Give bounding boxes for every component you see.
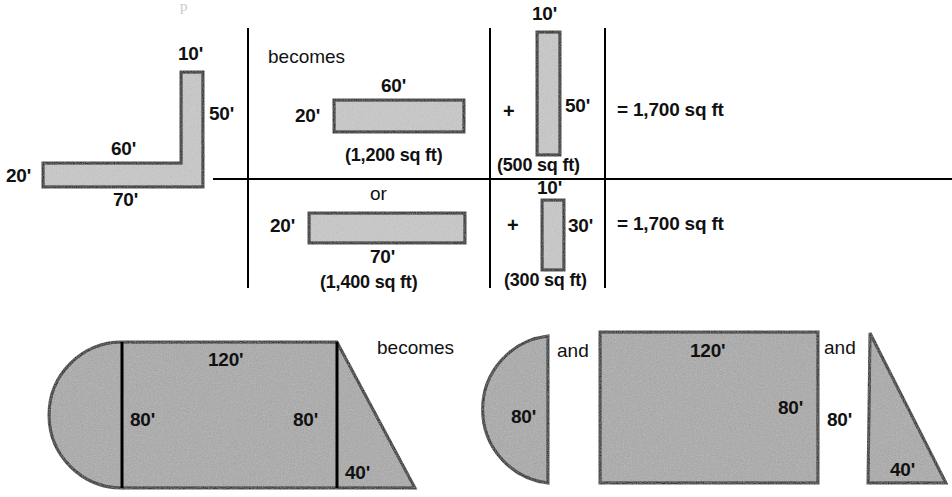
label-part-rect-length: 120' xyxy=(690,341,725,360)
label-rect70-area: (1,400 sq ft) xyxy=(320,273,417,291)
rect-70x20 xyxy=(309,213,465,243)
label-or: or xyxy=(370,183,387,205)
label-composite-triangle-base: 40' xyxy=(345,463,370,482)
rect-10x50 xyxy=(537,32,560,155)
label-rect70-height: 20' xyxy=(270,216,295,235)
label-total-a: = 1,700 sq ft xyxy=(617,100,724,119)
operator-plus-b: + xyxy=(507,214,519,237)
label-becomes-top: becomes xyxy=(268,46,345,68)
label-bar30-height: 30' xyxy=(568,216,593,235)
label-rect60-area: (1,200 sq ft) xyxy=(345,146,442,164)
label-and-1: and xyxy=(557,340,589,362)
operator-plus-a: + xyxy=(503,100,515,123)
label-and-2: and xyxy=(824,337,856,359)
label-l-left-height: 20' xyxy=(6,166,31,185)
label-bar50-width: 10' xyxy=(532,4,557,23)
label-l-bottom-width: 70' xyxy=(113,190,138,209)
label-rect70-length: 70' xyxy=(370,247,395,266)
label-part-rect-height: 80' xyxy=(778,398,803,417)
label-becomes-bottom: becomes xyxy=(377,337,454,359)
label-total-b: = 1,700 sq ft xyxy=(617,214,724,233)
label-l-top-width: 10' xyxy=(178,44,203,63)
label-rect60-height: 20' xyxy=(295,106,320,125)
page-title-fragment: p xyxy=(180,0,188,15)
label-l-right-height: 50' xyxy=(209,104,234,123)
label-bar30-width: 10' xyxy=(537,178,562,197)
label-part-triangle-base: 40' xyxy=(890,460,915,479)
label-composite-left-height: 80' xyxy=(130,410,155,429)
label-bar50-area: (500 sq ft) xyxy=(497,156,580,174)
diagram-canvas: p 10' 50' 60' 20' 70' becomes 60' 20' (1… xyxy=(0,0,952,497)
label-bar50-height: 50' xyxy=(565,96,590,115)
rect-60x20 xyxy=(334,100,464,132)
l-shape-original xyxy=(43,72,203,187)
label-composite-right-height: 80' xyxy=(293,410,318,429)
rect-10x30 xyxy=(542,200,564,270)
label-part-triangle-height: 80' xyxy=(827,410,852,429)
label-l-inner-horizontal: 60' xyxy=(111,139,136,158)
label-rect60-length: 60' xyxy=(381,76,406,95)
label-semicircle-diameter: 80' xyxy=(511,407,536,426)
label-composite-top-length: 120' xyxy=(208,350,243,369)
label-bar30-area: (300 sq ft) xyxy=(504,271,587,289)
